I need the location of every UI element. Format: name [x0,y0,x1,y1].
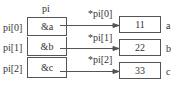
var-name-a: a [166,20,170,31]
value-box-c: 33 [119,62,161,79]
value-box-b: 22 [119,39,161,56]
value-box-a: 11 [119,16,161,33]
var-name-b: b [166,43,171,54]
var-name-c: c [166,66,170,77]
